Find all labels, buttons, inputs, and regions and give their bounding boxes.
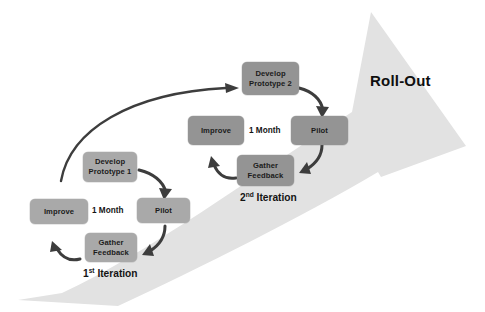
node-line1: Pilot bbox=[155, 206, 172, 216]
node-line1: Pilot bbox=[311, 126, 328, 136]
node-gather-feedback-1[interactable]: Gather Feedback bbox=[85, 233, 137, 262]
node-develop-prototype-1[interactable]: Develop Prototype 1 bbox=[83, 152, 137, 182]
arrow-feedback1-to-improve1 bbox=[50, 241, 80, 260]
node-line1: Develop bbox=[249, 69, 292, 79]
node-pilot-2[interactable]: Pilot bbox=[291, 116, 348, 145]
node-pilot-1[interactable]: Pilot bbox=[137, 198, 190, 223]
arrow-dev1-to-pilot1 bbox=[139, 170, 172, 200]
iteration1-caption: 1st Iteration bbox=[83, 268, 138, 279]
node-line2: Prototype 2 bbox=[249, 79, 292, 89]
node-line2: Feedback bbox=[248, 171, 284, 181]
node-line1: Develop bbox=[89, 157, 132, 167]
node-gather-feedback-2[interactable]: Gather Feedback bbox=[237, 155, 294, 186]
iteration2-caption-word: Iteration bbox=[254, 192, 297, 203]
iteration1-caption-word: Iteration bbox=[95, 268, 138, 279]
iteration2-caption: 2nd Iteration bbox=[240, 192, 297, 203]
node-line1: Gather bbox=[93, 238, 129, 248]
arrow-dev2-to-pilot2 bbox=[299, 88, 329, 118]
roll-out-label: Roll-Out bbox=[370, 72, 431, 89]
node-line1: Improve bbox=[44, 207, 74, 217]
process-diagram: Develop Prototype 1 Pilot Gather Feedbac… bbox=[0, 0, 485, 312]
node-improve-1[interactable]: Improve bbox=[30, 199, 88, 224]
iteration1-duration-label: 1 Month bbox=[92, 206, 123, 215]
node-develop-prototype-2[interactable]: Develop Prototype 2 bbox=[242, 62, 299, 95]
arrow-feedback2-to-improve2 bbox=[208, 156, 236, 178]
node-line1: Gather bbox=[248, 161, 284, 171]
iteration2-caption-ordinal: nd bbox=[246, 191, 254, 198]
iteration2-duration-label: 1 Month bbox=[249, 126, 280, 135]
node-improve-2[interactable]: Improve bbox=[188, 116, 244, 145]
node-line1: Improve bbox=[201, 126, 231, 136]
node-line2: Feedback bbox=[93, 248, 129, 258]
node-line2: Prototype 1 bbox=[89, 167, 132, 177]
